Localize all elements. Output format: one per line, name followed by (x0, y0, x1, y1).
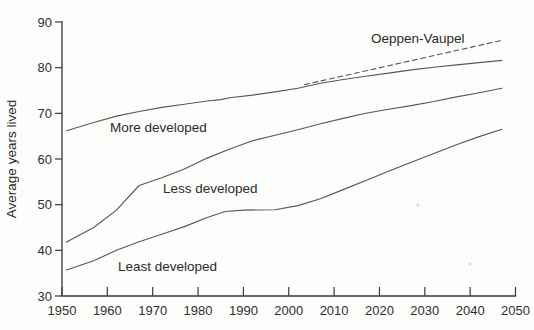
x-tick-label: 2000 (274, 303, 303, 318)
y-tick-label: 60 (38, 152, 52, 167)
scan-artifacts (416, 203, 471, 265)
x-tick-label: 1950 (48, 303, 77, 318)
x-tick-label: 1960 (93, 303, 122, 318)
y-tick-label: 80 (38, 60, 52, 75)
series-lines (67, 40, 502, 270)
x-tick-label: 2010 (320, 303, 349, 318)
x-tick-label: 1970 (138, 303, 167, 318)
x-tick-label: 2050 (501, 303, 530, 318)
scan-speck (469, 263, 472, 266)
x-tick-label: 2030 (410, 303, 439, 318)
y-axis-title: Average years lived (4, 100, 19, 218)
more-developed-label: More developed (110, 120, 207, 135)
axis-frame (62, 22, 516, 296)
series-line-less-developed (67, 88, 502, 242)
y-tick-label: 50 (38, 197, 52, 212)
life-expectancy-chart: 3040506070809019501960197019801990200020… (0, 0, 534, 330)
axes: 3040506070809019501960197019801990200020… (38, 15, 530, 319)
x-tick-label: 1980 (184, 303, 213, 318)
x-tick-label: 1990 (229, 303, 258, 318)
oeppen-vaupel-label: Oeppen-Vaupel (371, 31, 465, 46)
x-tick-label: 2040 (456, 303, 485, 318)
x-tick-label: 2020 (365, 303, 394, 318)
y-tick-label: 40 (38, 243, 52, 258)
y-tick-label: 90 (38, 15, 52, 30)
y-tick-label: 70 (38, 106, 52, 121)
least-developed-label: Least developed (118, 259, 217, 274)
series-line-least-developed (67, 129, 502, 270)
series-line-oeppen-vaupel (305, 40, 502, 84)
scan-speck (416, 203, 419, 206)
curve-labels: More developed Less developed Least deve… (4, 31, 465, 274)
less-developed-label: Less developed (163, 181, 258, 196)
figure-page: 3040506070809019501960197019801990200020… (0, 0, 534, 330)
y-tick-label: 30 (38, 289, 52, 304)
